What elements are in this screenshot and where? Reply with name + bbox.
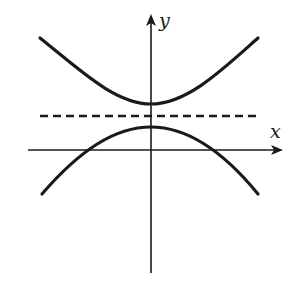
lower-curve bbox=[42, 127, 258, 194]
x-axis-label: x bbox=[270, 120, 281, 142]
upper-curve bbox=[40, 38, 258, 104]
y-axis-label: y bbox=[158, 9, 170, 31]
diagram-figure: y x bbox=[0, 0, 288, 281]
